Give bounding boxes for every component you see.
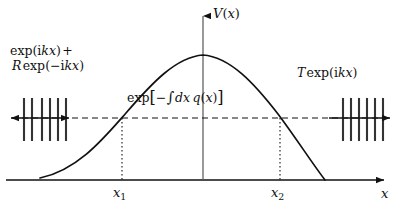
tunnel-minus-sign: − [156,90,166,105]
tunnel-differential-x: x [183,90,190,105]
transmitted-wavenumber: k [338,65,346,80]
incident-reflected-wave-marks [24,98,66,141]
turning-point-1-label: x1 [113,185,126,202]
potential-paren-close: ) [235,6,240,21]
turning-point-1-subscript: 1 [120,191,126,202]
reflection-coefficient: R [12,58,21,73]
position-axis-label: x [381,186,388,201]
incident-position-var: x [49,43,56,58]
potential-axis-label: V(x) [213,6,240,21]
integral-icon: ∫ [166,89,175,105]
incident-paren-close: ) [56,43,61,58]
incident-wave-label: exp(ikx) + R exp(−ikx) [10,44,84,74]
tunnel-decay-fn: q [192,90,200,105]
tunnel-differential-d: d [175,90,183,105]
transmitted-exp-fn: exp [307,65,329,80]
reflected-paren-close: ) [79,58,84,73]
tunnel-bracket-close: ] [217,88,223,107]
tunnel-exp-fn: exp [127,90,149,105]
transmitted-wave-label: T exp(ikx) [297,66,357,81]
incident-exp-fn: exp [10,43,32,58]
transmitted-position-var: x [346,65,353,80]
turning-point-2-subscript: 2 [278,191,284,202]
potential-arg: x [227,6,234,21]
incident-plus-sign: + [62,43,72,58]
transmission-coefficient: T [297,65,305,80]
transmitted-wave-marks [343,98,383,141]
incident-wavenumber: k [41,43,49,58]
potential-symbol: V [213,6,222,21]
reflected-exp-fn: exp [23,58,45,73]
tunnelling-amplitude-label: exp[−∫dx q(x)] [127,89,224,108]
reflected-wavenumber: k [65,58,73,73]
transmitted-paren-close: ) [353,65,358,80]
reflected-minus-sign: − [50,58,60,73]
turning-point-2-label: x2 [271,185,284,202]
